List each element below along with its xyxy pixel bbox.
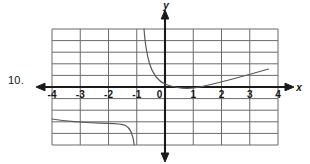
rational-function-graph: -4 -3 -2 -1 0 1 2 3 4 x y: [0, 0, 310, 164]
x-tick-label: -3: [76, 89, 85, 100]
y-axis-label: y: [162, 0, 169, 11]
x-axis-label: x: [295, 82, 302, 93]
y-axis-up-arrow: [161, 10, 169, 19]
x-tick-label: 3: [247, 89, 253, 100]
x-tick-label: -1: [132, 89, 141, 100]
y-axis-down-arrow: [161, 153, 169, 162]
figure-page: 10.: [0, 0, 310, 164]
curve-lower-left-branch: [52, 119, 134, 145]
x-tick-label: 0: [157, 89, 163, 100]
x-axis-left-arrow: [36, 83, 45, 91]
x-tick-label: 2: [219, 89, 225, 100]
x-tick-label: -2: [104, 89, 113, 100]
x-axis-right-arrow: [285, 83, 294, 91]
axes: [36, 10, 294, 162]
x-tick-label: 4: [275, 89, 281, 100]
x-tick-label: -4: [48, 89, 57, 100]
x-tick-label: 1: [190, 89, 196, 100]
